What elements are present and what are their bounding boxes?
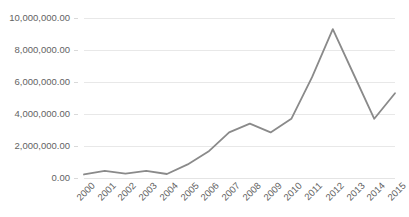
x-tick-label: 2010: [282, 180, 305, 203]
x-tick-label: 2014: [364, 180, 387, 203]
x-tick-label: 2005: [178, 180, 201, 203]
y-tick-mark: [74, 18, 78, 19]
y-tick-label: 10,000,000.00: [9, 13, 70, 23]
y-tick-label: 8,000,000.00: [15, 45, 70, 55]
x-tick-label: 2006: [199, 180, 222, 203]
x-tick-label: 2009: [261, 180, 284, 203]
y-tick-mark: [74, 82, 78, 83]
y-tick-mark: [74, 114, 78, 115]
y-tick-mark: [74, 146, 78, 147]
gridline: [84, 178, 395, 179]
x-tick-label: 2007: [219, 180, 242, 203]
series-polyline: [84, 29, 395, 174]
x-tick-label: 2015: [385, 180, 408, 203]
line-chart: 0.002,000,000.004,000,000.006,000,000.00…: [0, 0, 409, 217]
plot-area: [84, 18, 395, 178]
y-tick-mark: [74, 50, 78, 51]
x-tick-label: 2013: [344, 180, 367, 203]
y-tick-mark: [74, 178, 78, 179]
y-axis: 0.002,000,000.004,000,000.006,000,000.00…: [0, 0, 78, 217]
y-tick-label: 6,000,000.00: [15, 77, 70, 87]
y-tick-label: 4,000,000.00: [15, 109, 70, 119]
x-tick-label: 2002: [116, 180, 139, 203]
x-tick-label: 2012: [323, 180, 346, 203]
x-tick-label: 2011: [302, 180, 324, 202]
x-axis: 2000200120022003200420052006200720082009…: [84, 180, 395, 217]
y-tick-label: 2,000,000.00: [15, 141, 70, 151]
x-tick-label: 2008: [240, 180, 263, 203]
y-tick-label: 0.00: [52, 173, 71, 183]
x-tick-label: 2001: [95, 180, 118, 203]
x-tick-label: 2003: [136, 180, 159, 203]
data-series-line: [84, 18, 395, 178]
x-tick-label: 2004: [157, 180, 180, 203]
